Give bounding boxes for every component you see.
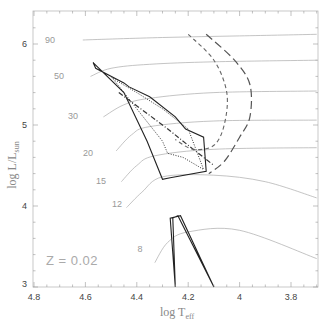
x-tick-label: 4.6 [79, 292, 92, 302]
mass-label-30: 30 [68, 111, 78, 121]
y-tick-label: 6 [22, 39, 27, 49]
plot-frame [33, 11, 318, 287]
mass-label-8: 8 [137, 244, 142, 254]
hr-diagram-chart: 9050302015128 4.84.64.44.243.83456 Z = 0… [0, 0, 324, 321]
x-axis-title: log Teff [160, 305, 195, 321]
series-line [121, 148, 316, 182]
y-axis-title: log L/Lsun [5, 141, 21, 188]
mass-label-15: 15 [96, 176, 106, 186]
x-tick-label: 4 [237, 292, 242, 302]
series-line [155, 228, 317, 262]
boundary-curves [93, 34, 251, 287]
mass-label-90: 90 [45, 35, 55, 45]
mass-labels: 9050302015128 [45, 35, 143, 254]
series-line [170, 216, 214, 287]
mass-label-12: 12 [112, 199, 122, 209]
x-tick-label: 3.8 [285, 292, 298, 302]
series-line [103, 91, 316, 117]
series-line [91, 60, 317, 76]
y-tick-label: 3 [22, 279, 27, 289]
y-tick-label: 4 [22, 201, 27, 211]
series-line [116, 120, 317, 151]
series-line [175, 34, 227, 149]
series-line [206, 34, 251, 173]
evolutionary-tracks [83, 34, 317, 262]
series-line [127, 175, 317, 208]
x-tick-label: 4.8 [28, 292, 41, 302]
series-line [83, 34, 317, 40]
x-tick-label: 4.2 [182, 292, 195, 302]
x-tick-label: 4.4 [131, 292, 144, 302]
mass-label-20: 20 [83, 148, 93, 158]
mass-label-50: 50 [54, 71, 64, 81]
series-line [93, 63, 206, 180]
metallicity-annotation: Z = 0.02 [46, 253, 98, 268]
y-tick-label: 5 [22, 120, 27, 130]
